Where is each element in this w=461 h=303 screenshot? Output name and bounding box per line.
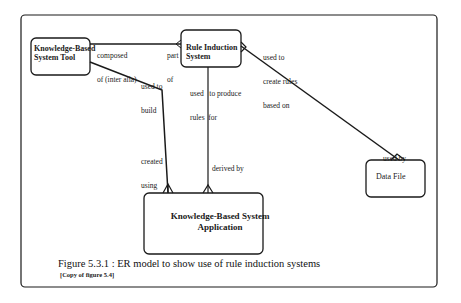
entity-label-line: System Tool — [34, 53, 95, 62]
label-line: create rules — [263, 78, 297, 86]
figure-caption: Figure 5.3.1 : ER model to show use of r… — [58, 258, 320, 269]
entity-kbs-tool-label: Knowledge-Based System Tool — [34, 44, 95, 62]
relationship-label-composed-of: composed of (inter alia) — [97, 36, 137, 92]
figure-subcaption: [Copy of figure 5.4] — [60, 271, 114, 278]
relationship-label-derived-by: derived by — [212, 149, 244, 181]
label-line: used to — [141, 83, 162, 91]
relationship-label-used-to-produce: used to produce rules for — [190, 74, 241, 130]
relationship-label-used-to-create-rules: used to create rules based on — [263, 38, 297, 118]
relationship-label-used-to-build: used to build — [141, 67, 162, 123]
label-line: using — [141, 182, 163, 190]
entity-label-line: Application — [165, 222, 275, 233]
entity-data-file-label: Data File — [376, 172, 406, 181]
label-line: build — [141, 107, 162, 115]
entity-label-line: Data File — [376, 172, 406, 181]
label-line: of (inter alia) — [97, 76, 137, 84]
label-line: of — [167, 76, 179, 84]
entity-label-line: Knowledge-Based — [34, 44, 95, 53]
label-line: used to — [263, 54, 297, 62]
relationship-label-part-of: part of — [167, 36, 179, 92]
label-line: used by — [383, 155, 406, 163]
entity-label-line: System — [186, 52, 237, 61]
relationship-label-used-by: used by — [383, 139, 406, 171]
relationship-label-created-using: created using — [141, 142, 163, 198]
entity-kbs-application-label: Knowledge-Based System Application — [165, 211, 275, 233]
label-line: derived by — [212, 165, 244, 173]
label-line: composed — [97, 52, 137, 60]
crows-foot-marker — [163, 184, 173, 193]
label-line: rules for — [190, 114, 241, 122]
entity-label-line: Rule Induction — [186, 43, 237, 52]
label-line: used to produce — [190, 90, 241, 98]
label-line: based on — [263, 102, 297, 110]
entity-rule-induction-label: Rule Induction System — [186, 43, 237, 61]
entity-label-line: Knowledge-Based System — [165, 211, 275, 222]
label-line: part — [167, 52, 179, 60]
label-line: created — [141, 158, 163, 166]
